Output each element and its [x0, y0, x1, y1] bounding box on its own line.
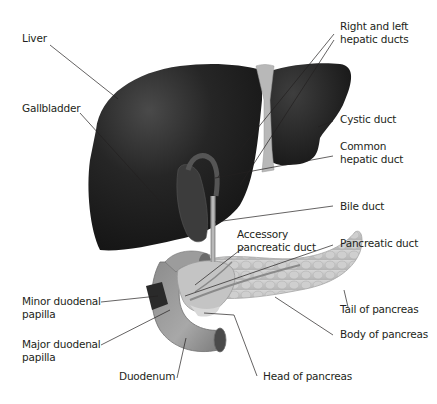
label-text: Right and left: [340, 20, 408, 33]
label-text: Head of pancreas: [263, 370, 352, 383]
label-text: hepatic ducts: [340, 33, 408, 46]
label-pancreatic-duct: Pancreatic duct: [340, 237, 418, 250]
label-text: pancreatic duct: [237, 241, 316, 254]
label-text: Accessory: [237, 228, 316, 241]
label-text: papilla: [22, 308, 101, 321]
label-accessory-pancreatic-duct: Accessory pancreatic duct: [237, 228, 316, 254]
label-text: Common: [340, 140, 403, 153]
label-text: Minor duodenal: [22, 295, 101, 308]
label-right-left-hepatic-ducts: Right and left hepatic ducts: [340, 20, 408, 46]
label-text: Major duodenal: [22, 338, 101, 351]
label-text: Bile duct: [340, 200, 384, 213]
label-text: Liver: [22, 32, 47, 45]
label-body-of-pancreas: Body of pancreas: [340, 328, 428, 341]
label-minor-duodenal-papilla: Minor duodenal papilla: [22, 295, 101, 321]
label-gallbladder: Gallbladder: [22, 102, 80, 115]
label-bile-duct: Bile duct: [340, 200, 384, 213]
label-duodenum: Duodenum: [119, 370, 175, 383]
label-text: Gallbladder: [22, 102, 80, 115]
label-head-of-pancreas: Head of pancreas: [263, 370, 352, 383]
label-text: hepatic duct: [340, 153, 403, 166]
label-liver: Liver: [22, 32, 47, 45]
label-cystic-duct: Cystic duct: [340, 113, 396, 126]
duodenum-opening: [214, 328, 226, 352]
liver-right-lobe: [88, 64, 262, 250]
label-text: Pancreatic duct: [340, 237, 418, 250]
label-text: Duodenum: [119, 370, 175, 383]
liver-left-lobe: [268, 63, 351, 165]
anatomy-diagram: Liver Gallbladder Right and left hepatic…: [0, 0, 437, 404]
label-tail-of-pancreas: Tail of pancreas: [340, 303, 419, 316]
label-major-duodenal-papilla: Major duodenal papilla: [22, 338, 101, 364]
label-text: papilla: [22, 351, 101, 364]
label-common-hepatic-duct: Common hepatic duct: [340, 140, 403, 166]
label-text: Body of pancreas: [340, 328, 428, 341]
label-text: Cystic duct: [340, 113, 396, 126]
label-text: Tail of pancreas: [340, 303, 419, 316]
